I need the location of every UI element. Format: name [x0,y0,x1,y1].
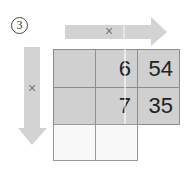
grid-cell-r2c2: 7 [95,87,138,125]
multiply-icon-top: × [102,24,116,38]
grid-cell-r3c2 [95,124,138,161]
grid-cell-r1c1 [53,49,96,88]
grid-cell-r2c3: 35 [137,87,180,125]
right-arrow-icon [65,17,167,46]
multiply-icon-left: × [25,81,39,95]
grid-cell-r3c1 [53,124,96,161]
paper-crease [124,49,126,124]
grid-cell-r1c2: 6 [95,49,138,88]
grid-cell-r1c3: 54 [137,49,180,88]
grid-cell-r2c1 [53,87,96,125]
down-arrow-icon [18,47,47,145]
